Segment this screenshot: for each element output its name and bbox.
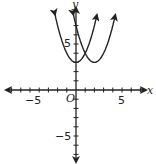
x-axis-label: x — [147, 84, 154, 97]
y-axis-label: y — [71, 0, 79, 11]
x-tick-label-5: 5 — [118, 94, 125, 107]
coordinate-plane: x y O −5 5 5 −5 — [0, 0, 156, 164]
y-tick-label-neg5: −5 — [55, 130, 71, 143]
origin-label: O — [66, 92, 75, 105]
parabola-2 — [73, 15, 115, 63]
y-tick-label-5: 5 — [64, 37, 71, 50]
x-tick-label-neg5: −5 — [25, 94, 41, 107]
